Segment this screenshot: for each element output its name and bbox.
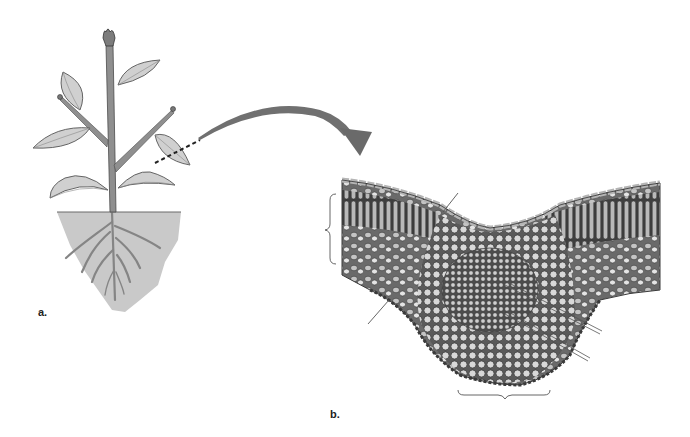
bottom-bracket [458, 390, 550, 399]
panel-label-b: b. [330, 408, 340, 420]
panel-label-a: a. [38, 306, 47, 318]
leader-line-lower-left [368, 300, 389, 324]
main-stem [106, 45, 116, 212]
vascular-bundle [442, 248, 538, 332]
figure-drawing [0, 0, 690, 437]
left-bracket [325, 194, 336, 264]
plant-illustration [33, 29, 200, 312]
curved-arrow [198, 106, 372, 156]
leaf-anatomy-figure: a. b. [0, 0, 690, 437]
leaf-cross-section [342, 180, 660, 385]
apical-bud [103, 29, 115, 46]
